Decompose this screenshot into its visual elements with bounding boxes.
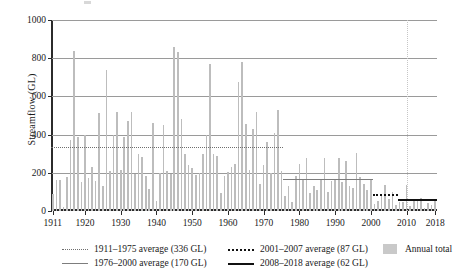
- legend-marker-solid-black-icon: [228, 258, 254, 267]
- bar: [163, 125, 165, 211]
- bar: [434, 200, 436, 211]
- bar: [191, 168, 193, 211]
- bar: [152, 123, 154, 211]
- bar: [202, 154, 204, 211]
- x-tick-mark: [228, 211, 229, 215]
- bar: [270, 173, 272, 211]
- bar: [352, 188, 354, 211]
- x-tick-label: 1960: [218, 218, 237, 228]
- bar: [59, 180, 61, 211]
- bar: [381, 194, 383, 211]
- bar: [252, 129, 254, 211]
- bar: [166, 171, 168, 211]
- legend-item-avg-1911-1975: 1911–1975 average (336 GL): [62, 243, 206, 254]
- bar-series-annual-total: [51, 20, 437, 211]
- x-tick-mark: [156, 211, 157, 215]
- bar: [63, 207, 65, 211]
- bar: [320, 180, 322, 212]
- bar: [359, 177, 361, 211]
- bar: [291, 202, 293, 211]
- bar: [98, 113, 100, 211]
- legend-label: 2001–2007 average (87 GL): [260, 244, 368, 254]
- bar: [313, 186, 315, 211]
- bar: [102, 186, 104, 211]
- x-tick-label: 2000: [361, 218, 380, 228]
- legend-marker-solid-gray-icon: [62, 258, 88, 267]
- bar: [216, 156, 218, 211]
- legend-marker-dotted-thin-icon: [62, 244, 88, 253]
- bar: [263, 165, 265, 211]
- x-tick-label: 1950: [183, 218, 202, 228]
- bar: [349, 186, 351, 211]
- bar: [417, 201, 419, 211]
- x-tick-label: 1970: [254, 218, 273, 228]
- bar: [95, 181, 97, 211]
- y-tick-label: 800: [32, 53, 46, 63]
- bar: [70, 140, 72, 211]
- bar: [377, 201, 379, 212]
- bar: [363, 184, 365, 211]
- bar: [395, 205, 397, 211]
- plot-area: 02004006008001000 1911192019301940195019…: [51, 20, 437, 211]
- bar: [370, 179, 372, 211]
- bar: [277, 110, 279, 211]
- bar: [338, 158, 340, 211]
- bar: [288, 186, 290, 211]
- legend-label: Annual total: [405, 244, 452, 254]
- bar: [424, 208, 426, 211]
- average-line-avg-2008-2018: [398, 199, 437, 201]
- legend-marker-dotted-thick-icon: [228, 244, 254, 253]
- x-tick-mark: [85, 211, 86, 215]
- bar: [109, 171, 111, 211]
- legend-item-annual-total: Annual total: [383, 243, 452, 254]
- x-tick-label: 1911: [43, 218, 62, 228]
- x-tick-mark: [299, 211, 300, 215]
- y-tick-label: 400: [32, 130, 46, 140]
- x-tick-mark: [371, 211, 372, 215]
- average-line-avg-1911-1975: [51, 147, 283, 148]
- y-tick-label: 0: [41, 206, 46, 216]
- bar: [302, 180, 304, 212]
- bar: [334, 179, 336, 211]
- legend-label: 2008–2018 average (62 GL): [260, 258, 368, 268]
- x-tick-label: 1930: [111, 218, 130, 228]
- bar: [327, 192, 329, 211]
- bar: [134, 174, 136, 211]
- x-tick-mark: [264, 211, 265, 215]
- average-line-avg-1976-2000: [283, 179, 372, 180]
- x-tick-label: 2018: [426, 218, 445, 228]
- bar: [284, 196, 286, 211]
- bar: [181, 119, 183, 211]
- bar: [123, 137, 125, 211]
- x-tick-mark: [335, 211, 336, 215]
- page-artifact: [84, 1, 91, 4]
- x-tick-mark: [192, 211, 193, 215]
- bar: [131, 112, 133, 211]
- x-tick-mark: [121, 211, 122, 215]
- bar: [173, 47, 175, 211]
- bar: [331, 181, 333, 211]
- bar: [188, 165, 190, 211]
- bar: [66, 177, 68, 211]
- bar: [145, 176, 147, 211]
- legend-marker-bar-swatch-icon: [383, 244, 397, 254]
- bar: [324, 158, 326, 211]
- bar: [245, 124, 247, 211]
- bar: [52, 194, 54, 211]
- bar: [241, 62, 243, 211]
- bar: [413, 201, 415, 212]
- bar: [199, 173, 201, 211]
- legend-item-avg-2001-2007: 2001–2007 average (87 GL): [228, 243, 368, 254]
- x-tick-label: 1920: [75, 218, 94, 228]
- bar: [170, 174, 172, 211]
- bar: [91, 167, 93, 211]
- y-tick-label: 1000: [27, 15, 46, 25]
- bar: [177, 52, 179, 211]
- bar: [402, 202, 404, 211]
- bar: [356, 153, 358, 211]
- legend-item-avg-2008-2018: 2008–2018 average (62 GL): [228, 257, 368, 268]
- bar: [409, 206, 411, 211]
- y-tick-label: 600: [32, 91, 46, 101]
- bar: [209, 64, 211, 211]
- legend-label: 1911–1975 average (336 GL): [94, 244, 206, 254]
